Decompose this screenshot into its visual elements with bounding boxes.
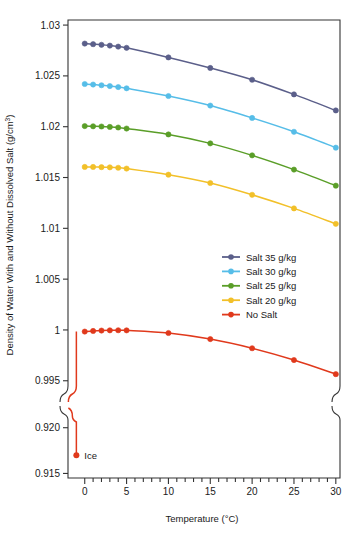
data-point <box>107 43 112 48</box>
x-tick-label: 0 <box>82 486 88 497</box>
data-point <box>291 129 296 134</box>
data-point <box>91 124 96 129</box>
data-point <box>124 126 129 131</box>
data-point <box>208 103 213 108</box>
y-tick-label: 1 <box>54 325 60 336</box>
y-tick-label: 1.03 <box>41 20 61 31</box>
legend-label: Salt 30 g/kg <box>246 266 296 277</box>
ice-label: Ice <box>84 450 97 461</box>
data-point <box>333 145 338 150</box>
data-point <box>166 172 171 177</box>
x-tick-label: 25 <box>288 486 300 497</box>
data-point <box>250 153 255 158</box>
data-point <box>107 83 112 88</box>
data-point <box>91 82 96 87</box>
data-point <box>99 124 104 129</box>
data-point <box>116 165 121 170</box>
data-point <box>208 180 213 185</box>
data-point <box>333 108 338 113</box>
legend-swatch-marker <box>228 254 234 260</box>
y-tick-label: 1.015 <box>35 172 60 183</box>
y-tick-label: 0.920 <box>35 422 60 433</box>
data-point <box>166 132 171 137</box>
data-point <box>91 164 96 169</box>
legend-label: Salt 25 g/kg <box>246 280 296 291</box>
legend-swatch-marker <box>228 283 234 289</box>
legend-swatch-marker <box>228 297 234 303</box>
data-point <box>82 41 87 46</box>
y-tick-label: 1.025 <box>35 70 60 81</box>
legend-label: No Salt <box>246 309 278 320</box>
data-point <box>291 206 296 211</box>
data-point <box>250 346 255 351</box>
data-point <box>166 93 171 98</box>
data-point <box>99 42 104 47</box>
data-point <box>250 192 255 197</box>
data-point <box>250 77 255 82</box>
legend-label: Salt 35 g/kg <box>246 252 296 263</box>
data-point <box>99 328 104 333</box>
data-point <box>99 165 104 170</box>
x-tick-label: 15 <box>205 486 217 497</box>
x-tick-label: 30 <box>330 486 342 497</box>
data-point <box>124 328 129 333</box>
y-tick-label: 0.995 <box>35 375 60 386</box>
data-point <box>99 83 104 88</box>
y-tick-label: 1.005 <box>35 274 60 285</box>
data-point <box>82 123 87 128</box>
data-point <box>107 124 112 129</box>
data-point <box>124 86 129 91</box>
ice-point <box>73 452 79 458</box>
data-point <box>82 81 87 86</box>
y-tick-label: 1.01 <box>41 223 61 234</box>
data-point <box>91 42 96 47</box>
data-point <box>116 44 121 49</box>
data-point <box>208 141 213 146</box>
data-point <box>116 84 121 89</box>
y-tick-label: 0.915 <box>35 468 60 479</box>
data-point <box>291 92 296 97</box>
data-point <box>82 164 87 169</box>
data-point <box>333 372 338 377</box>
data-point <box>291 167 296 172</box>
data-point <box>333 221 338 226</box>
x-axis-title: Temperature (°C) <box>166 513 239 524</box>
data-point <box>208 65 213 70</box>
chart-canvas: 1.031.0251.021.0151.011.00510.995 0.9200… <box>0 0 358 534</box>
data-point <box>166 330 171 335</box>
data-point <box>107 328 112 333</box>
data-point <box>116 328 121 333</box>
legend-label: Salt 20 g/kg <box>246 295 296 306</box>
data-point <box>116 125 121 130</box>
data-point <box>291 357 296 362</box>
legend-swatch-marker <box>228 269 234 275</box>
data-point <box>124 166 129 171</box>
density-temperature-chart: 1.031.0251.021.0151.011.00510.995 0.9200… <box>0 0 358 534</box>
y-axis-title: Density of Water With and Without Dissol… <box>4 115 16 356</box>
data-point <box>124 45 129 50</box>
data-point <box>91 328 96 333</box>
y-axis-title-text: Density of Water With and Without Dissol… <box>4 115 16 356</box>
y-tick-label: 1.02 <box>41 121 61 132</box>
data-point <box>250 115 255 120</box>
x-tick-label: 20 <box>247 486 259 497</box>
data-point <box>82 329 87 334</box>
x-tick-label: 10 <box>163 486 175 497</box>
data-point <box>333 183 338 188</box>
x-tick-label: 5 <box>124 486 130 497</box>
data-point <box>166 55 171 60</box>
data-point <box>208 336 213 341</box>
legend-swatch-marker <box>228 312 234 318</box>
data-point <box>107 165 112 170</box>
